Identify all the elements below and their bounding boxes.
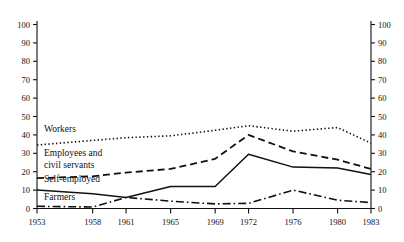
y-tick-label-right: 10	[378, 185, 387, 195]
series-line-workers	[37, 126, 371, 145]
series-label-self-employed: Self-employed	[44, 174, 100, 184]
y-tick-label-left: 90	[22, 38, 31, 48]
y-tick-label-right: 60	[378, 93, 387, 103]
y-tick-label-left: 70	[22, 75, 31, 85]
x-tick-label: 1976	[285, 217, 302, 227]
chart-canvas: 0010102020303040405050606070708080909010…	[0, 0, 404, 242]
x-tick-label: 1958	[84, 217, 101, 227]
y-tick-label-left: 50	[22, 112, 31, 122]
x-tick-label: 1972	[240, 217, 257, 227]
y-tick-label-right: 90	[378, 38, 387, 48]
y-tick-label-right: 40	[378, 130, 387, 140]
y-tick-label-right: 20	[378, 167, 387, 177]
line-chart: 0010102020303040405050606070708080909010…	[0, 0, 404, 242]
x-tick-label: 1953	[29, 217, 46, 227]
y-tick-label-left: 80	[22, 56, 31, 66]
y-tick-label-left: 100	[17, 20, 30, 30]
y-tick-label-right: 100	[378, 20, 391, 30]
y-tick-label-right: 0	[378, 204, 382, 214]
y-tick-label-right: 50	[378, 112, 387, 122]
series-label-farmers: Farmers	[44, 192, 75, 202]
x-tick-label: 1969	[207, 217, 224, 227]
y-tick-label-left: 30	[22, 148, 31, 158]
y-tick-label-left: 10	[22, 185, 31, 195]
y-tick-label-right: 70	[378, 75, 387, 85]
x-tick-label: 1961	[118, 217, 135, 227]
x-tick-label: 1983	[363, 217, 380, 227]
x-tick-label: 1965	[162, 217, 179, 227]
y-tick-label-left: 20	[22, 167, 31, 177]
series-line-farmers	[37, 190, 371, 207]
series-label-workers: Workers	[44, 124, 76, 134]
y-tick-label-right: 30	[378, 148, 387, 158]
series-label-employees-and-civil-servants: Employees and	[44, 148, 103, 158]
y-tick-label-left: 60	[22, 93, 31, 103]
y-tick-label-right: 80	[378, 56, 387, 66]
x-tick-label: 1980	[329, 217, 346, 227]
y-tick-label-left: 0	[26, 204, 30, 214]
series-label-employees-and-civil-servants: civil servants	[44, 160, 95, 170]
y-tick-label-left: 40	[22, 130, 31, 140]
